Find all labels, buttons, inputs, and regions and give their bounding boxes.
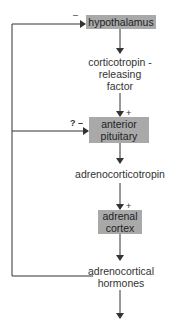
pituitary-line-2: pituitary [101,130,138,142]
crf-line-1: corticotropin - [80,56,160,68]
adrenocortical-hormones-label: adrenocortical hormones [86,265,156,289]
acth-label: adrenocorticotropin [70,168,170,180]
crf-line-2: releasing [80,68,160,80]
adrenal-line-2: cortex [106,222,135,234]
hormones-line-2: hormones [86,277,156,289]
crf-line-3: factor [80,80,160,92]
crf-label: corticotropin - releasing factor [80,56,160,92]
anterior-pituitary-node: anterior pituitary [89,117,149,143]
hormones-line-1: adrenocortical [86,265,156,277]
hypothalamus-label: hypothalamus [88,16,153,28]
hypothalamus-feedback-sign: – [73,11,78,20]
adrenal-cortex-node: adrenal cortex [98,210,142,234]
pituitary-line-1: anterior [101,118,137,130]
hypothalamus-node: hypothalamus [86,15,156,29]
pituitary-feedback-sign: ? – [70,119,83,128]
adrenal-line-1: adrenal [102,210,137,222]
